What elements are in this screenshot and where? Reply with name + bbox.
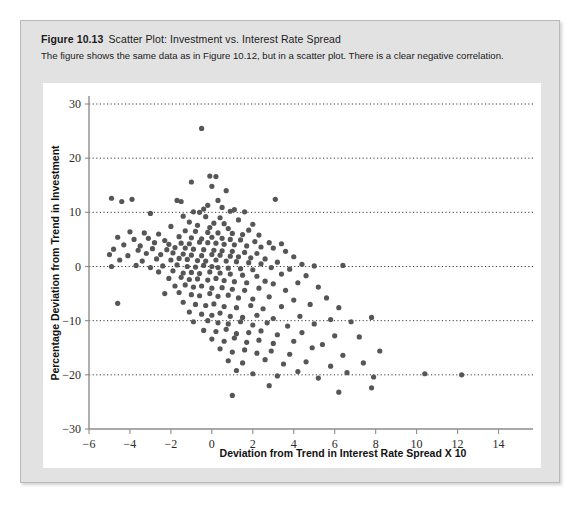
data-point bbox=[209, 264, 214, 269]
data-point bbox=[183, 228, 188, 233]
data-point bbox=[344, 370, 349, 375]
data-point bbox=[234, 259, 239, 264]
data-point bbox=[174, 262, 179, 267]
data-point bbox=[201, 328, 206, 333]
data-point bbox=[271, 316, 276, 321]
data-point bbox=[260, 306, 265, 311]
data-point bbox=[134, 263, 139, 268]
data-point bbox=[209, 313, 214, 318]
data-point bbox=[215, 265, 220, 270]
data-point bbox=[254, 274, 259, 279]
data-point bbox=[291, 339, 296, 344]
data-point bbox=[267, 240, 272, 245]
data-point bbox=[191, 284, 196, 289]
data-point bbox=[197, 240, 202, 245]
data-point bbox=[170, 268, 175, 273]
figure-number: Figure 10.13 bbox=[41, 33, 103, 45]
data-point bbox=[244, 340, 249, 345]
data-point bbox=[291, 254, 296, 259]
data-point bbox=[258, 244, 263, 249]
data-point bbox=[201, 263, 206, 268]
data-point bbox=[295, 280, 300, 285]
data-point bbox=[193, 264, 198, 269]
data-point bbox=[303, 273, 308, 278]
data-point bbox=[228, 314, 233, 319]
data-point bbox=[217, 253, 222, 258]
data-point bbox=[189, 179, 194, 184]
data-point bbox=[265, 320, 270, 325]
data-point bbox=[181, 300, 186, 305]
data-point bbox=[207, 269, 212, 274]
data-point bbox=[205, 240, 210, 245]
data-point bbox=[226, 358, 231, 363]
data-point bbox=[152, 240, 157, 245]
data-point bbox=[220, 285, 225, 290]
data-point bbox=[336, 305, 341, 310]
axes bbox=[89, 96, 533, 429]
y-tick-label: 30 bbox=[69, 97, 81, 111]
data-point bbox=[275, 260, 280, 265]
data-point bbox=[240, 360, 245, 365]
data-point bbox=[273, 197, 278, 202]
data-point bbox=[252, 239, 257, 244]
data-point bbox=[217, 310, 222, 315]
data-point bbox=[238, 237, 243, 242]
data-point bbox=[148, 265, 153, 270]
data-point bbox=[213, 241, 218, 246]
data-point bbox=[205, 230, 210, 235]
data-point bbox=[236, 254, 241, 259]
data-point bbox=[316, 375, 321, 380]
x-tick-label: 14 bbox=[493, 437, 505, 451]
data-point bbox=[197, 210, 202, 215]
data-point bbox=[242, 250, 247, 255]
data-points bbox=[107, 126, 464, 398]
data-point bbox=[263, 279, 268, 284]
data-point bbox=[244, 280, 249, 285]
data-point bbox=[156, 231, 161, 236]
data-point bbox=[226, 321, 231, 326]
data-point bbox=[349, 319, 354, 324]
data-point bbox=[215, 294, 220, 299]
data-point bbox=[234, 368, 239, 373]
figure-card: Figure 10.13Scatter Plot: Investment vs.… bbox=[20, 20, 560, 483]
data-point bbox=[217, 346, 222, 351]
data-point bbox=[279, 304, 284, 309]
data-point bbox=[230, 393, 235, 398]
data-point bbox=[177, 234, 182, 239]
data-point bbox=[246, 228, 251, 233]
data-point bbox=[295, 369, 300, 374]
data-point bbox=[228, 254, 233, 259]
data-point bbox=[240, 232, 245, 237]
data-point bbox=[310, 345, 315, 350]
data-point bbox=[109, 264, 114, 269]
data-point bbox=[459, 372, 464, 377]
y-axis-title: Percentage Deviation from Trend in Inves… bbox=[49, 145, 61, 381]
data-point bbox=[224, 327, 229, 332]
data-point bbox=[254, 351, 259, 356]
y-tick-label: −30 bbox=[62, 422, 81, 436]
data-point bbox=[183, 282, 188, 287]
data-point bbox=[340, 263, 345, 268]
data-point bbox=[340, 353, 345, 358]
data-point bbox=[172, 245, 177, 250]
data-point bbox=[166, 242, 171, 247]
data-point bbox=[181, 214, 186, 219]
data-point bbox=[238, 319, 243, 324]
data-point bbox=[209, 184, 214, 189]
data-point bbox=[228, 209, 233, 214]
y-tick-label: 20 bbox=[69, 151, 81, 165]
data-point bbox=[125, 253, 130, 258]
data-point bbox=[197, 293, 202, 298]
data-point bbox=[185, 257, 190, 262]
data-point bbox=[328, 317, 333, 322]
data-point bbox=[222, 278, 227, 283]
data-point bbox=[209, 286, 214, 291]
data-point bbox=[228, 237, 233, 242]
data-point bbox=[271, 245, 276, 250]
data-point bbox=[246, 330, 251, 335]
data-point bbox=[248, 303, 253, 308]
data-point bbox=[230, 249, 235, 254]
x-tick-label: −4 bbox=[124, 437, 137, 451]
data-point bbox=[146, 236, 151, 241]
data-point bbox=[279, 271, 284, 276]
